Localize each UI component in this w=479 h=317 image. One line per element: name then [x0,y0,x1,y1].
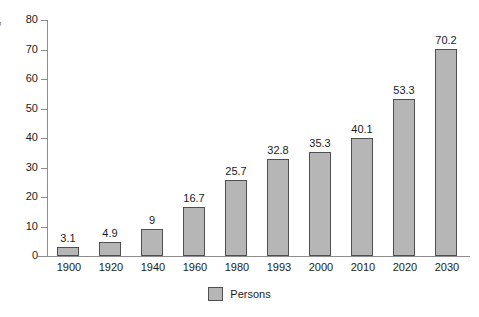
bar [393,99,415,256]
x-axis-line [38,256,470,257]
bar-value-label: 35.3 [299,137,341,149]
y-axis-tick-label: 10 [16,221,38,232]
x-axis-tick-label: 1900 [48,261,90,273]
x-axis-tick-label: 1940 [132,261,174,273]
legend-swatch-persons [208,287,223,301]
y-axis-tick-label-wrap: 30 [10,162,38,173]
y-axis-tick-label: 0 [16,250,38,261]
bar-value-label: 40.1 [341,123,383,135]
bar-group: 70.2 [425,20,467,256]
x-axis-tick-label: 1960 [174,261,216,273]
x-axis-tick-label: 2000 [300,261,342,273]
bar-value-label: 25.7 [215,165,257,177]
plot-area: 3.14.9916.725.732.835.340.153.370.2 [47,20,467,256]
y-axis-tick [41,256,48,257]
x-axis-tick-label: 1993 [258,261,300,273]
y-axis-tick-label-wrap: 0 [10,250,38,261]
bar-group: 9 [131,20,173,256]
x-axis-tick-label: 2030 [426,261,468,273]
bar [309,152,331,256]
y-axis-tick-label-wrap: 80 [10,14,38,25]
bar-value-label: 32.8 [257,144,299,156]
x-axis-tick-label: 1920 [90,261,132,273]
y-axis-tick-label: 60 [16,73,38,84]
y-axis-tick-label: 30 [16,162,38,173]
x-axis-tick-label: 2020 [384,261,426,273]
bar-group: 53.3 [383,20,425,256]
chart-legend: Persons [0,287,479,301]
y-axis-tick-label: 40 [16,132,38,143]
y-axis-tick-label-wrap: 10 [10,221,38,232]
bar-value-label: 3.1 [47,232,89,244]
bar [435,49,457,256]
y-axis-tick-label-wrap: 70 [10,44,38,55]
bar-group: 4.9 [89,20,131,256]
bar [141,229,163,256]
bar-value-label: 4.9 [89,227,131,239]
legend-label-persons: Persons [230,288,270,300]
x-axis-tick-label: 2010 [342,261,384,273]
bar-value-label: 9 [131,214,173,226]
bar-group: 40.1 [341,20,383,256]
bar-group: 32.8 [257,20,299,256]
bar [267,159,289,256]
bar [225,180,247,256]
bar-group: 35.3 [299,20,341,256]
bar-group: 16.7 [173,20,215,256]
x-axis-tick-label: 1980 [216,261,258,273]
bar-value-label: 70.2 [425,34,467,46]
bar-value-label: 53.3 [383,84,425,96]
y-axis-tick-label-wrap: 20 [10,191,38,202]
y-axis-title: s [0,0,3,26]
y-axis-tick-label: 50 [16,103,38,114]
y-axis-tick-label: 80 [16,14,38,25]
y-axis-tick-label-wrap: 40 [10,132,38,143]
bar [183,207,205,256]
bar-group: 25.7 [215,20,257,256]
bar-group: 3.1 [47,20,89,256]
y-axis-tick-label-wrap: 60 [10,73,38,84]
bar-chart: s 01020304050607080 3.14.9916.725.732.83… [0,0,479,317]
y-axis-tick-label-wrap: 50 [10,103,38,114]
bar [351,138,373,256]
bar-value-label: 16.7 [173,192,215,204]
bar [99,242,121,256]
y-axis-tick-label: 70 [16,44,38,55]
bar [57,247,79,256]
y-axis-tick-label: 20 [16,191,38,202]
